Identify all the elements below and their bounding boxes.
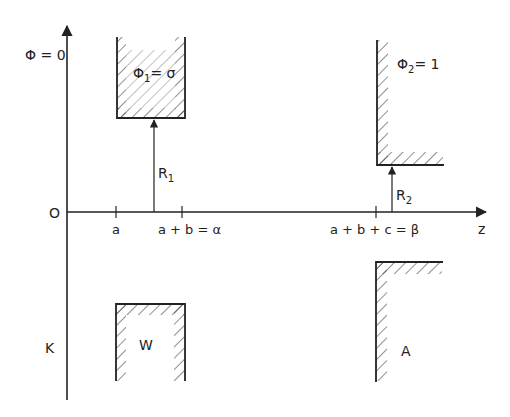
tick-label-alpha: a + b = α (158, 222, 221, 237)
tick-label-beta: a + b + c = β (330, 222, 419, 237)
tick-label-a: a (112, 222, 120, 237)
w-label: W (139, 337, 153, 353)
lower-right-electrode (376, 262, 443, 382)
r2-label: R2 (396, 187, 412, 206)
a-label: A (401, 343, 411, 359)
phi2-label: Φ2= 1 (397, 56, 440, 75)
origin-label: O (49, 205, 60, 221)
electrode-diagram: Φ = 0 O z K a a + b = α a + b + c = β Φ1… (0, 0, 510, 417)
r1-label: R1 (158, 165, 174, 184)
phi-zero-label: Φ = 0 (25, 47, 66, 63)
k-label: K (45, 340, 55, 356)
z-axis-label: z (478, 221, 485, 237)
